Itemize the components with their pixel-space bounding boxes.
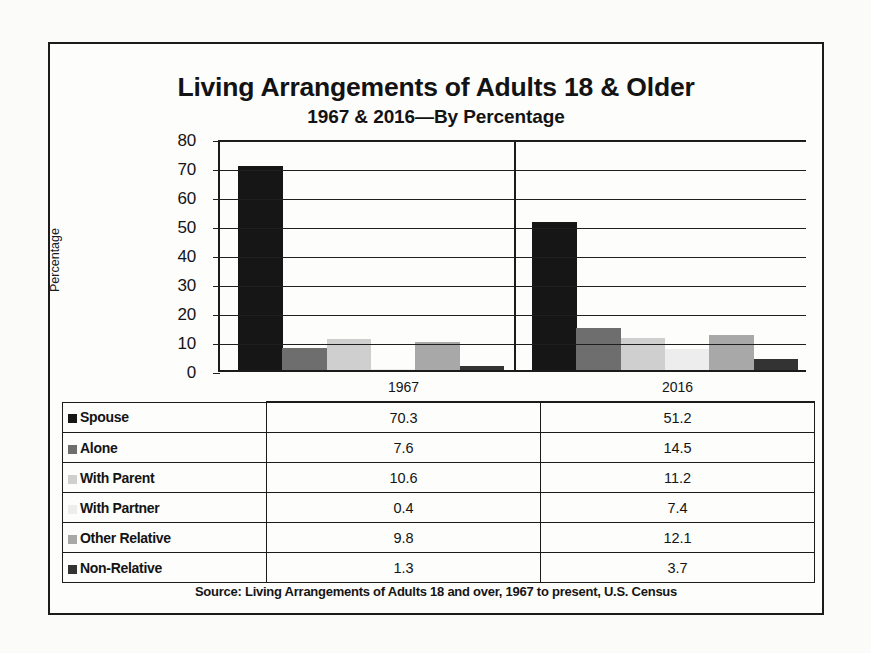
page-background: Living Arrangements of Adults 18 & Older… xyxy=(0,0,871,653)
legend-item-label: With Parent xyxy=(80,470,154,486)
table-corner-cell xyxy=(63,372,267,402)
y-axis-tick-mark xyxy=(213,315,220,316)
bar xyxy=(238,166,283,370)
legend-swatch-icon xyxy=(68,414,77,423)
y-axis-tick-label: 10 xyxy=(177,335,196,352)
y-axis-tick-mark xyxy=(213,257,220,258)
y-axis-tick-labels: 01020304050607080 xyxy=(146,140,200,372)
table-row: With Partner0.47.4 xyxy=(63,493,815,523)
bar xyxy=(754,359,799,370)
bar xyxy=(532,222,577,370)
bar xyxy=(460,366,505,370)
table-cell-value: 11.2 xyxy=(541,463,815,493)
table-cell-value: 10.6 xyxy=(267,463,541,493)
gridline xyxy=(220,257,806,258)
y-axis-tick-label: 20 xyxy=(177,306,196,323)
table-header-row: 19672016 xyxy=(63,372,815,402)
bar xyxy=(621,338,666,370)
legend-swatch-icon xyxy=(68,505,77,514)
y-axis-tick-mark xyxy=(213,141,220,142)
gridline xyxy=(220,141,806,142)
bar xyxy=(371,369,416,371)
bar xyxy=(709,335,754,370)
table-row: With Parent10.611.2 xyxy=(63,463,815,493)
legend-swatch-icon xyxy=(68,565,77,574)
legend-item-label: Alone xyxy=(80,440,117,456)
legend-swatch-icon xyxy=(68,475,77,484)
data-table: 19672016Spouse70.351.2Alone7.614.5With P… xyxy=(62,372,815,583)
page-title: Living Arrangements of Adults 18 & Older xyxy=(50,72,822,103)
legend-swatch-icon xyxy=(68,535,77,544)
y-axis-tick-label: 80 xyxy=(177,132,196,149)
y-axis-title: Percentage xyxy=(48,200,62,320)
chart-subtitle: 1967 & 2016—By Percentage xyxy=(50,106,822,128)
gridline xyxy=(220,286,806,287)
bar xyxy=(415,342,460,370)
table-cell-value: 51.2 xyxy=(541,402,815,433)
table-row: Spouse70.351.2 xyxy=(63,402,815,433)
y-axis-tick-mark xyxy=(213,286,220,287)
bars-layer xyxy=(220,142,806,370)
y-axis-tick-label: 40 xyxy=(177,248,196,265)
y-axis-tick-label: 50 xyxy=(177,219,196,236)
plot-area xyxy=(218,140,806,372)
table-cell-value: 3.7 xyxy=(541,553,815,583)
column-header-2016: 2016 xyxy=(541,372,815,402)
gridline xyxy=(220,228,806,229)
legend-item-spouse: Spouse xyxy=(63,402,267,433)
table-row: Non-Relative1.33.7 xyxy=(63,553,815,583)
table-cell-value: 0.4 xyxy=(267,493,541,523)
y-axis-tick-label: 30 xyxy=(177,277,196,294)
y-axis-tick-label: 60 xyxy=(177,190,196,207)
legend-item-label: Spouse xyxy=(80,409,129,425)
bar xyxy=(282,348,327,370)
gridline xyxy=(220,315,806,316)
table-cell-value: 12.1 xyxy=(541,523,815,553)
table-cell-value: 7.4 xyxy=(541,493,815,523)
table-row: Alone7.614.5 xyxy=(63,433,815,463)
legend-item-with-parent: With Parent xyxy=(63,463,267,493)
legend-swatch-icon xyxy=(68,445,77,454)
gridline xyxy=(220,199,806,200)
gridline xyxy=(220,170,806,171)
legend-item-label: With Partner xyxy=(80,500,160,516)
legend-item-with-partner: With Partner xyxy=(63,493,267,523)
legend-item-label: Non-Relative xyxy=(80,560,162,576)
table-cell-value: 7.6 xyxy=(267,433,541,463)
figure-frame: Living Arrangements of Adults 18 & Older… xyxy=(48,42,824,615)
y-axis-tick-mark xyxy=(213,344,220,345)
bar xyxy=(665,349,710,370)
bar xyxy=(576,328,621,370)
source-note: Source: Living Arrangements of Adults 18… xyxy=(50,584,822,599)
table-cell-value: 14.5 xyxy=(541,433,815,463)
legend-item-alone: Alone xyxy=(63,433,267,463)
column-header-1967: 1967 xyxy=(267,372,541,402)
y-axis-tick-label: 70 xyxy=(177,161,196,178)
table-cell-value: 1.3 xyxy=(267,553,541,583)
table-cell-value: 70.3 xyxy=(267,402,541,433)
y-axis-tick-mark xyxy=(213,228,220,229)
table-row: Other Relative9.812.1 xyxy=(63,523,815,553)
gridline xyxy=(220,344,806,345)
legend-item-non-relative: Non-Relative xyxy=(63,553,267,583)
y-axis-tick-mark xyxy=(213,199,220,200)
legend-item-label: Other Relative xyxy=(80,530,171,546)
group-divider xyxy=(514,142,516,370)
chart-plot: Percentage 01020304050607080 xyxy=(50,140,826,382)
y-axis-tick-mark xyxy=(213,170,220,171)
legend-item-other-relative: Other Relative xyxy=(63,523,267,553)
table-cell-value: 9.8 xyxy=(267,523,541,553)
